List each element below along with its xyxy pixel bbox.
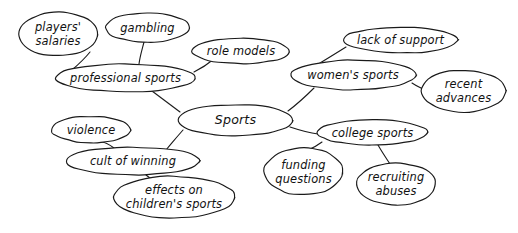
- node-label-line: violence: [67, 122, 116, 136]
- node-role-models[interactable]: role models: [192, 38, 290, 64]
- node-label-line: children's sports: [126, 197, 222, 211]
- mindmap-svg: Sportsprofessional sportswomen's sportsc…: [0, 0, 518, 233]
- node-lack-of-support[interactable]: lack of support: [344, 27, 459, 52]
- node-label-line: abuses: [375, 184, 416, 198]
- node-label-recruiting-abuses: recruitingabuses: [368, 170, 425, 198]
- node-recent-advances[interactable]: recentadvances: [421, 71, 506, 113]
- node-label-line: college sports: [332, 125, 414, 139]
- node-label-cult: cult of winning: [90, 154, 176, 168]
- node-recruiting-abuses[interactable]: recruitingabuses: [357, 163, 436, 205]
- node-label-players-salaries: players'salaries: [34, 20, 81, 48]
- node-label-college: college sports: [332, 125, 414, 139]
- node-label-role-models: role models: [207, 44, 276, 58]
- node-label-gambling: gambling: [120, 20, 175, 34]
- node-violence[interactable]: violence: [52, 117, 132, 143]
- node-label-line: gambling: [120, 20, 175, 34]
- node-label-line: advances: [436, 91, 492, 105]
- node-womens[interactable]: women's sports: [291, 60, 417, 90]
- node-gambling[interactable]: gambling: [105, 13, 189, 42]
- node-label-line: salaries: [35, 34, 80, 48]
- edge-sports-to-womens: [288, 88, 314, 111]
- edge-cult-to-violence: [101, 142, 114, 148]
- edge-college-to-recruiting-abuses: [378, 145, 390, 164]
- node-players-salaries[interactable]: players'salaries: [19, 12, 98, 55]
- node-professional[interactable]: professional sports: [55, 64, 195, 92]
- edge-sports-to-professional: [152, 91, 180, 112]
- node-sports[interactable]: Sports: [178, 105, 293, 136]
- node-funding-questions[interactable]: fundingquestions: [264, 148, 343, 195]
- node-label-line: Sports: [215, 112, 257, 127]
- node-label-line: cult of winning: [90, 154, 176, 168]
- node-label-womens: women's sports: [307, 68, 399, 82]
- mindmap-canvas: Sportsprofessional sportswomen's sportsc…: [0, 0, 518, 233]
- node-label-lack-of-support: lack of support: [357, 33, 445, 47]
- node-label-line: role models: [207, 44, 276, 58]
- edge-sports-to-college: [290, 127, 318, 134]
- node-cult[interactable]: cult of winning: [66, 147, 200, 175]
- node-effects-children[interactable]: effects onchildren's sports: [113, 176, 234, 218]
- node-label-line: effects on: [145, 183, 203, 197]
- edge-professional-to-gambling: [139, 42, 144, 64]
- node-label-funding-questions: fundingquestions: [275, 157, 332, 185]
- node-label-line: women's sports: [307, 68, 399, 82]
- node-label-line: funding: [281, 157, 325, 171]
- edge-sports-to-cult: [166, 130, 183, 150]
- node-layer: Sportsprofessional sportswomen's sportsc…: [19, 12, 507, 218]
- node-label-line: questions: [275, 171, 332, 185]
- node-label-line: recruiting: [368, 170, 425, 184]
- node-label-line: players': [34, 20, 81, 34]
- node-label-line: recent: [445, 77, 483, 91]
- node-label-professional: professional sports: [69, 71, 181, 85]
- node-label-line: professional sports: [69, 71, 181, 85]
- node-label-line: lack of support: [357, 33, 445, 47]
- node-college[interactable]: college sports: [317, 120, 428, 145]
- node-label-sports: Sports: [215, 112, 257, 127]
- node-label-violence: violence: [67, 122, 116, 136]
